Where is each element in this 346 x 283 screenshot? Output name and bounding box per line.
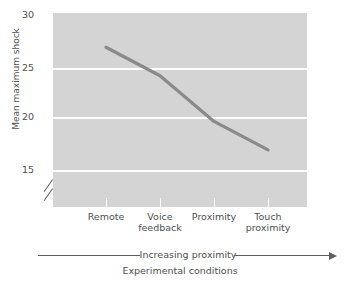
y-tick-label-15: 15: [0, 164, 34, 175]
x-tick-label-touch-proximity-line2: proximity: [223, 222, 313, 233]
proximity-rule-right: [234, 255, 330, 256]
arrow-right-icon: [329, 252, 337, 260]
proximity-rule-left: [38, 255, 140, 256]
series-polyline: [106, 47, 268, 150]
increasing-proximity-label: Increasing proximity: [138, 249, 238, 260]
x-tick-label-voice-feedback-line2: feedback: [115, 222, 205, 233]
plot-area: [53, 13, 307, 207]
y-tick-label-25: 25: [0, 62, 34, 73]
y-tick-label-20: 20: [0, 111, 34, 122]
data-series-line: [53, 13, 307, 207]
x-axis-label: Experimental conditions: [53, 265, 307, 276]
x-tick-label-touch-proximity: Touch proximity: [223, 211, 313, 233]
y-tick-label-30: 30: [0, 9, 34, 20]
x-tick-label-touch-proximity-line1: Touch: [223, 211, 313, 222]
chart-figure: Mean maximum shock 30 25 20 15 Remote Vo…: [0, 0, 346, 283]
y-axis-label: Mean maximum shock: [11, 0, 21, 159]
increasing-proximity-annotation: Increasing proximity: [38, 249, 338, 263]
